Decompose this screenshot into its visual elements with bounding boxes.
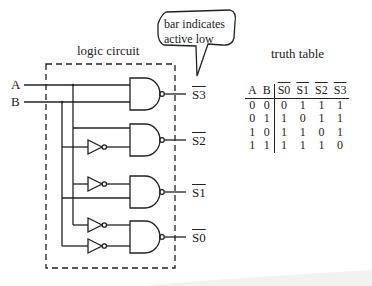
cell: 0 (260, 126, 275, 140)
table-row: 1 0 1 1 0 1 (245, 126, 349, 140)
inverter-b-s2 (88, 140, 102, 154)
header-s2: S2 (312, 84, 331, 98)
cell: 1 (312, 98, 331, 112)
nand-gate-s3 (130, 78, 160, 110)
cell: 1 (274, 139, 293, 153)
table-row: 0 0 0 1 1 1 (245, 98, 349, 112)
cell: 1 (260, 112, 275, 126)
circuit-boundary (46, 64, 175, 268)
inverter-a-s1 (88, 177, 102, 191)
header-b: B (260, 84, 275, 98)
input-label-b: B (11, 95, 20, 108)
cell: 0 (312, 126, 331, 140)
cell: 1 (260, 139, 275, 153)
cell: 1 (274, 112, 293, 126)
input-label-a: A (11, 78, 20, 91)
cell: 0 (293, 112, 312, 126)
output-label-s2: S2 (192, 134, 206, 147)
table-row: 0 1 1 0 1 1 (245, 112, 349, 126)
nand-gate-s0 (130, 221, 160, 253)
header-s1: S1 (293, 84, 312, 98)
inverter-a-s0 (88, 218, 102, 232)
cell: 1 (331, 112, 350, 126)
cell: 1 (312, 139, 331, 153)
header-s0: S0 (274, 84, 293, 98)
output-label-s3: S3 (192, 88, 206, 101)
logic-circuit-title: logic circuit (77, 44, 139, 57)
callout-text: bar indicates active low (164, 17, 225, 47)
truth-table-title: truth table (271, 47, 324, 60)
cell: 0 (245, 112, 260, 126)
callout-line-2: active low (164, 32, 225, 47)
cell: 0 (331, 139, 350, 153)
cell: 1 (312, 112, 331, 126)
nand-gate-s1 (130, 176, 160, 208)
cell: 1 (245, 126, 260, 140)
header-a: A (245, 84, 260, 98)
header-s3: S3 (331, 84, 350, 98)
nand-gate-s2 (130, 124, 160, 156)
cell: 1 (293, 98, 312, 112)
cell: 1 (274, 126, 293, 140)
truth-table-header: A B S0 S1 S2 S3 (245, 84, 349, 98)
truth-table: A B S0 S1 S2 S3 0 0 0 1 1 1 0 1 1 0 1 1 … (245, 84, 349, 153)
cell: 0 (245, 98, 260, 112)
output-label-s1: S1 (192, 186, 206, 199)
cell: 1 (245, 139, 260, 153)
cell: 1 (331, 98, 350, 112)
cell: 1 (293, 126, 312, 140)
table-row: 1 1 1 1 1 0 (245, 139, 349, 153)
output-label-s0: S0 (192, 231, 206, 244)
cell: 1 (293, 139, 312, 153)
cell: 1 (331, 126, 350, 140)
inverter-b-s0 (88, 239, 102, 253)
cell: 0 (274, 98, 293, 112)
callout-line-1: bar indicates (164, 17, 225, 32)
cell: 0 (260, 98, 275, 112)
